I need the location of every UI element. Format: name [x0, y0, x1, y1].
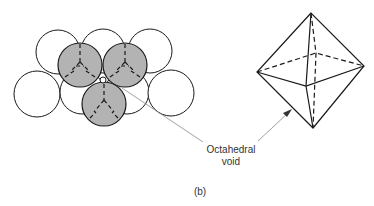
leader-arrow-right: [258, 112, 289, 141]
label-line-2: void: [196, 156, 266, 168]
shaded-sphere-left: [58, 43, 102, 87]
shaded-sphere-bottom: [82, 82, 126, 126]
octahedral-void-marker: [100, 77, 106, 83]
sphere-bottom-left: [14, 71, 60, 117]
label-line-1: Octahedral: [196, 144, 266, 156]
octahedral-void-label: Octahedral void: [196, 144, 266, 168]
figure-canvas: [0, 0, 374, 206]
sphere-bottom-right: [148, 70, 194, 116]
shaded-sphere-right: [103, 43, 147, 87]
panel-label: (b): [190, 186, 210, 198]
octahedron: [257, 13, 364, 128]
arrowhead-icon: [283, 109, 292, 117]
